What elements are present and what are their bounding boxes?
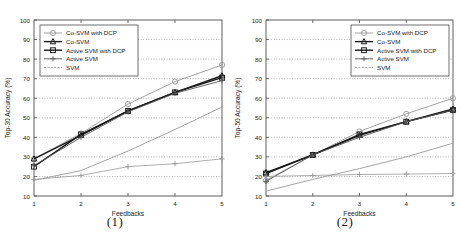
x-axis-tick-label: 2: [79, 200, 83, 207]
y-axis-tick-label: 100: [252, 17, 263, 24]
y-axis-tick-label: 90: [23, 36, 30, 43]
y-axis-tick-label: 70: [255, 75, 262, 82]
figure-container: 10203040506070809010012345FeedbacksTop-3…: [0, 0, 461, 242]
legend-label: Co-SVM with DCP: [377, 29, 428, 36]
x-axis-tick-label: 1: [264, 200, 268, 207]
y-axis-tick-label: 50: [255, 114, 262, 121]
x-axis-tick-label: 5: [220, 200, 224, 207]
y-axis-tick-label: 60: [255, 95, 262, 102]
x-axis-tick-label: 4: [173, 200, 177, 207]
y-axis-tick-label: 100: [20, 17, 31, 24]
y-axis-tick-label: 90: [255, 36, 262, 43]
legend-label: Active SVM with DCP: [377, 47, 436, 54]
x-axis-tick-label: 2: [311, 200, 315, 207]
panel-caption-1: (1): [0, 214, 230, 230]
chart-panel-1: 10203040506070809010012345FeedbacksTop-3…: [0, 0, 230, 242]
y-axis-label: Top-50 Accuracy (%): [234, 78, 242, 139]
x-axis-tick-label: 5: [451, 200, 455, 207]
legend-label: Active SVM with DCP: [66, 47, 125, 54]
x-axis-tick-label: 1: [32, 200, 36, 207]
legend-label: Co-SVM: [66, 38, 89, 45]
y-axis-label: Top-30 Accuracy (%): [4, 78, 12, 139]
legend-label: Active SVM: [377, 55, 409, 62]
y-axis-tick-label: 40: [23, 134, 30, 141]
legend-label: Active SVM: [66, 55, 98, 62]
panel-caption-2: (2): [230, 214, 460, 230]
legend-label: Co-SVM: [377, 38, 400, 45]
y-axis-tick-label: 50: [23, 114, 30, 121]
y-axis-tick-label: 70: [23, 75, 30, 82]
chart-svg-2: 10203040506070809010012345FeedbacksTop-5…: [230, 0, 461, 242]
legend-label: Co-SVM with DCP: [66, 29, 117, 36]
chart-panel-2: 10203040506070809010012345FeedbacksTop-5…: [230, 0, 460, 242]
y-axis-tick-label: 30: [255, 153, 262, 160]
y-axis-tick-label: 10: [255, 193, 262, 200]
y-axis-tick-label: 80: [23, 56, 30, 63]
y-axis-tick-label: 30: [23, 153, 30, 160]
chart-svg-1: 10203040506070809010012345FeedbacksTop-3…: [0, 0, 230, 242]
x-axis-tick-label: 3: [126, 200, 130, 207]
y-axis-tick-label: 40: [255, 134, 262, 141]
x-axis-tick-label: 3: [358, 200, 362, 207]
y-axis-tick-label: 20: [255, 173, 262, 180]
y-axis-tick-label: 60: [23, 95, 30, 102]
legend-label: SVM: [377, 64, 390, 71]
y-axis-tick-label: 20: [23, 173, 30, 180]
x-axis-tick-label: 4: [405, 200, 409, 207]
legend-label: SVM: [66, 64, 79, 71]
y-axis-tick-label: 10: [23, 193, 30, 200]
y-axis-tick-label: 80: [255, 56, 262, 63]
